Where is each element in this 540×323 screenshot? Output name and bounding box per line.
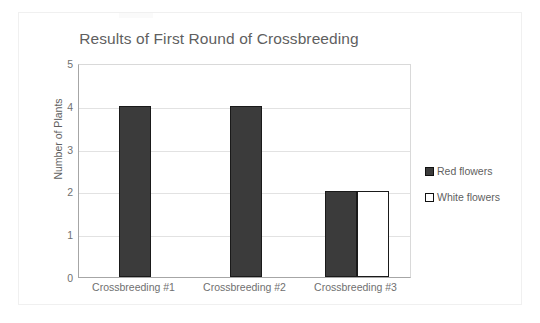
chart-container: Results of First Round of Crossbreeding … — [18, 12, 522, 305]
y-axis-tick-label: 2 — [51, 186, 73, 198]
y-axis-tick-label: 4 — [51, 101, 73, 113]
legend-swatch-red-icon — [425, 167, 434, 176]
bar-2-red[interactable] — [230, 106, 262, 277]
legend-label: White flowers — [437, 191, 500, 203]
bar-3-white[interactable] — [357, 191, 389, 277]
y-axis-tick-label: 5 — [51, 58, 73, 70]
chart-title: Results of First Round of Crossbreeding — [19, 30, 419, 48]
legend-swatch-white-icon — [425, 193, 434, 202]
cropped-text-artifact — [119, 13, 153, 18]
plot-area — [78, 64, 411, 278]
legend-label: Red flowers — [437, 165, 492, 177]
y-axis-tick-label: 0 — [51, 272, 73, 284]
y-axis-tick-label: 1 — [51, 229, 73, 241]
x-axis-tick-label: Crossbreeding #2 — [203, 281, 286, 293]
y-axis-tick-labels: 012345 — [45, 64, 73, 278]
legend-item-white[interactable]: White flowers — [425, 187, 525, 207]
x-axis-tick-label: Crossbreeding #1 — [92, 281, 175, 293]
y-axis-tick-label: 3 — [51, 144, 73, 156]
bar-1-red[interactable] — [119, 106, 151, 277]
x-axis-tick-label: Crossbreeding #3 — [314, 281, 397, 293]
bar-3-red[interactable] — [325, 191, 357, 277]
legend-item-red[interactable]: Red flowers — [425, 161, 525, 181]
x-axis-tick-labels: Crossbreeding #1Crossbreeding #2Crossbre… — [78, 281, 411, 301]
chart-legend: Red flowersWhite flowers — [425, 161, 525, 213]
